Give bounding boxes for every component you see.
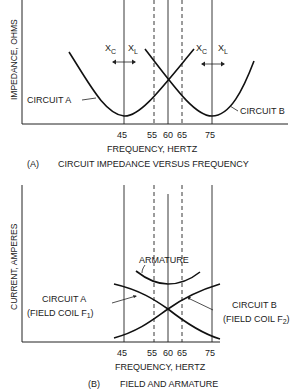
arrow-icon bbox=[133, 295, 137, 298]
circuit-a-label: CIRCUIT A bbox=[27, 95, 71, 105]
panel-a-y-label: IMPEDANCE, OHMS bbox=[9, 19, 19, 100]
tick-60: 60 bbox=[163, 130, 173, 140]
tick-75-b: 75 bbox=[205, 348, 215, 358]
circuit-a-field-label-line2: (FIELD COIL F1) bbox=[27, 308, 94, 319]
circuit-a-field-label-line1: CIRCUIT A bbox=[42, 294, 86, 304]
double-arrow-icon-b bbox=[201, 62, 225, 67]
circuit-b-impedance-curve bbox=[145, 49, 254, 116]
armature-label: ARMATURE bbox=[139, 255, 189, 265]
circuit-a-impedance-curve bbox=[69, 49, 194, 116]
panel-b-letter: (B) bbox=[88, 379, 100, 389]
tick-55-b: 55 bbox=[147, 348, 157, 358]
xc-label-a: XC bbox=[105, 43, 116, 55]
panel-b-y-label: CURRENT, AMPERES bbox=[9, 223, 19, 310]
panel-a-caption: CIRCUIT IMPEDANCE VERSUS FREQUENCY bbox=[58, 159, 249, 169]
circuit-b-field-leader bbox=[188, 298, 213, 310]
circuit-b-field-current-curve bbox=[114, 284, 220, 338]
xl-label-a: XL bbox=[128, 43, 138, 55]
panel-a-x-label: FREQUENCY, HERTZ bbox=[107, 144, 198, 154]
circuit-a-field-current-curve bbox=[114, 284, 220, 339]
panel-b: ARMATURE CIRCUIT A (FIELD COIL F1) CIRCU… bbox=[9, 185, 290, 389]
diagram-canvas: XC XL XC XL CIRCUIT A CIRCUIT B IMPEDANC… bbox=[0, 0, 305, 391]
tick-65-b: 65 bbox=[177, 348, 187, 358]
circuit-b-label: CIRCUIT B bbox=[240, 106, 285, 116]
tick-60-b: 60 bbox=[163, 348, 173, 358]
panel-a: XC XL XC XL CIRCUIT A CIRCUIT B IMPEDANC… bbox=[9, 0, 288, 169]
tick-45-b: 45 bbox=[117, 348, 127, 358]
circuit-b-field-label-line1: CIRCUIT B bbox=[232, 300, 277, 310]
tick-55: 55 bbox=[147, 130, 157, 140]
panel-b-x-label: FREQUENCY, HERTZ bbox=[115, 362, 206, 372]
circuit-a-leader bbox=[82, 98, 96, 100]
panel-a-letter: (A) bbox=[27, 159, 39, 169]
xc-label-b: XC bbox=[196, 43, 207, 55]
tick-75: 75 bbox=[205, 130, 215, 140]
circuit-b-leader bbox=[230, 106, 238, 111]
armature-leader bbox=[142, 265, 145, 273]
panel-b-caption: FIELD AND ARMATURE bbox=[120, 379, 218, 389]
xl-label-b: XL bbox=[218, 43, 228, 55]
tick-65: 65 bbox=[177, 130, 187, 140]
tick-45: 45 bbox=[117, 130, 127, 140]
circuit-b-field-label-line2: (FIELD COIL F2) bbox=[223, 314, 290, 325]
